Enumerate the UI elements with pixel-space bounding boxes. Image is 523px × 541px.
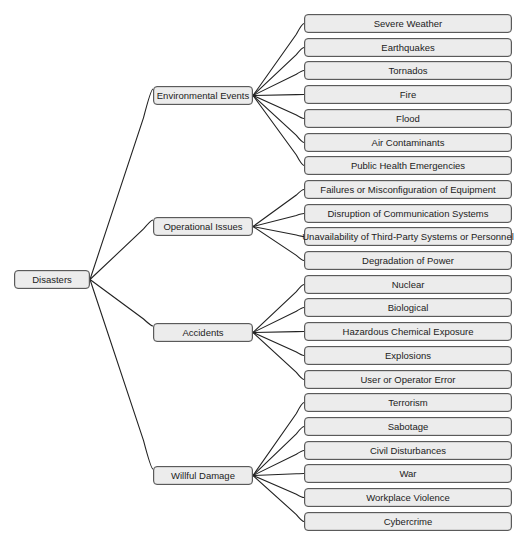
connector-category-to-leaf bbox=[253, 333, 304, 380]
leaf-node: Earthquakes bbox=[304, 38, 512, 57]
root-node-disasters: Disasters bbox=[14, 270, 90, 289]
connector-category-to-leaf bbox=[253, 476, 304, 522]
connector-category-to-leaf bbox=[253, 48, 304, 96]
connector-category-to-leaf bbox=[253, 427, 304, 476]
leaf-node: Disruption of Communication Systems bbox=[304, 204, 512, 223]
category-node-willful-damage: Willful Damage bbox=[153, 466, 253, 485]
leaf-node: Terrorism bbox=[304, 393, 512, 412]
leaf-node: War bbox=[304, 464, 512, 483]
connector-category-to-leaf bbox=[253, 96, 304, 119]
leaf-node: Public Health Emergencies bbox=[304, 156, 512, 175]
leaf-node: Degradation of Power bbox=[304, 251, 512, 270]
connector-category-to-leaf bbox=[253, 71, 304, 96]
leaf-node: Sabotage bbox=[304, 417, 512, 436]
connector-category-to-leaf bbox=[253, 403, 304, 476]
connector-category-to-leaf bbox=[253, 214, 304, 227]
connector-category-to-leaf bbox=[253, 451, 304, 476]
leaf-node: Biological bbox=[304, 298, 512, 317]
connector-category-to-leaf bbox=[253, 24, 304, 96]
connector-category-to-leaf bbox=[253, 333, 304, 356]
connector-category-to-leaf bbox=[253, 96, 304, 166]
connector-category-to-leaf bbox=[253, 190, 304, 227]
leaf-node: Civil Disturbances bbox=[304, 441, 512, 460]
category-node-accidents: Accidents bbox=[153, 323, 253, 342]
connector-category-to-leaf bbox=[253, 474, 304, 476]
connector-root-to-category bbox=[90, 280, 153, 327]
leaf-node: Nuclear bbox=[304, 275, 512, 294]
leaf-node: Hazardous Chemical Exposure bbox=[304, 322, 512, 341]
connector-category-to-leaf bbox=[253, 96, 304, 143]
leaf-node: Severe Weather bbox=[304, 14, 512, 33]
connector-category-to-leaf bbox=[253, 285, 304, 333]
category-node-operational-issues: Operational Issues bbox=[153, 217, 253, 236]
leaf-node: Failures or Misconfiguration of Equipmen… bbox=[304, 180, 512, 199]
leaf-node: Unavailability of Third-Party Systems or… bbox=[304, 227, 512, 246]
connector-category-to-leaf bbox=[253, 308, 304, 333]
connector-root-to-category bbox=[90, 280, 153, 470]
disasters-tree-diagram: Disasters Environmental EventsOperationa… bbox=[0, 0, 523, 541]
connector-category-to-leaf bbox=[253, 95, 304, 96]
leaf-node: Fire bbox=[304, 85, 512, 104]
connector-category-to-leaf bbox=[253, 332, 304, 333]
leaf-node: User or Operator Error bbox=[304, 370, 512, 389]
category-node-environmental-events: Environmental Events bbox=[153, 86, 253, 105]
leaf-node: Workplace Violence bbox=[304, 488, 512, 507]
connector-category-to-leaf bbox=[253, 476, 304, 498]
leaf-node: Tornados bbox=[304, 61, 512, 80]
leaf-node: Air Contaminants bbox=[304, 133, 512, 152]
connector-root-to-category bbox=[90, 89, 153, 280]
leaf-node: Explosions bbox=[304, 346, 512, 365]
leaf-node: Flood bbox=[304, 109, 512, 128]
leaf-node: Cybercrime bbox=[304, 512, 512, 531]
